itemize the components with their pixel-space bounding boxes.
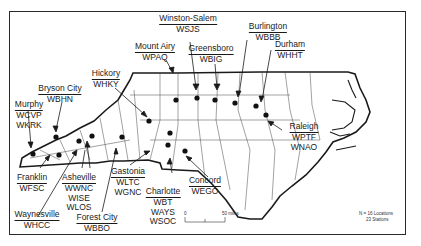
count-note: N = 16 Locations 23 Stations (359, 211, 393, 223)
label-mount-airy: Mount AiryWPAQ (135, 42, 175, 63)
label-greensboro: GreensboroWBIG (189, 44, 234, 65)
scale-bar (185, 217, 225, 222)
label-murphy: MurphyWCVPWKRK (15, 100, 43, 130)
label-winston-salem: Winston-SalemWSJS (159, 14, 217, 35)
label-charlotte: CharlotteWBTWAYSWSOC (146, 187, 181, 227)
label-franklin: FranklinWFSC (17, 173, 47, 194)
note-stations: 23 Stations (359, 217, 393, 223)
label-gastonia: GastoniaWLTCWGNC (111, 167, 145, 197)
label-bryson-city: Bryson CityWBHN (38, 84, 81, 105)
scale-start-label: 0 (184, 211, 187, 216)
label-hickory: HickoryWHKY (92, 69, 120, 90)
label-durham: DurhamWHHT (275, 40, 305, 61)
scale-end-label: 50 miles (222, 211, 239, 216)
label-forest-city: Forest CityWBBO (76, 213, 117, 234)
label-waynesville: WaynesvilleWHCC (14, 210, 59, 231)
label-raleigh: RaleighWPTFWNAO (290, 122, 319, 152)
label-asheville: AshevilleWWNCWISEWLOS (62, 173, 96, 213)
label-concord: ConcordWEGO (189, 176, 221, 197)
